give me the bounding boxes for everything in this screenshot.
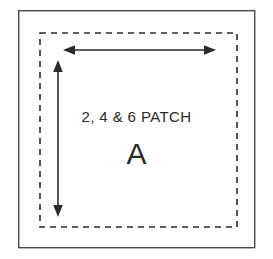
diagram-canvas: 2, 4 & 6 PATCH A	[0, 0, 273, 259]
patch-template-diagram	[0, 0, 273, 259]
diagram-background	[0, 0, 273, 259]
